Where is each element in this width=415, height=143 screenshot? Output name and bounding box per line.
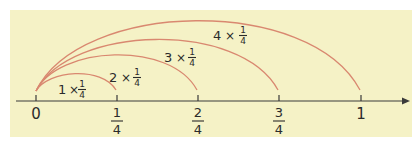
tick-label-0: 0 (31, 105, 41, 123)
svg-text:×: × (176, 51, 186, 65)
svg-text:1: 1 (189, 47, 195, 57)
jump-label-1: 1 × 1 4 (58, 79, 86, 100)
tick-label-three-quarters: 3 4 (273, 105, 285, 137)
jump-label-2: 2 × 1 4 (109, 67, 141, 88)
svg-text:4: 4 (240, 36, 246, 46)
svg-text:3: 3 (275, 105, 283, 120)
svg-text:1: 1 (113, 105, 121, 120)
tick-label-1: 1 (356, 105, 366, 123)
axis-arrow-icon (402, 98, 410, 105)
svg-text:1: 1 (79, 79, 85, 89)
svg-text:4: 4 (275, 122, 283, 137)
svg-text:×: × (121, 71, 131, 85)
svg-text:3: 3 (164, 50, 172, 65)
svg-text:2: 2 (109, 70, 117, 85)
svg-text:1: 1 (58, 82, 66, 97)
tick-label-half: 2 4 (192, 105, 204, 137)
svg-text:4: 4 (194, 122, 202, 137)
svg-text:4: 4 (113, 122, 121, 137)
svg-text:2: 2 (194, 105, 202, 120)
svg-text:×: × (69, 83, 79, 97)
svg-text:×: × (225, 29, 235, 43)
svg-text:4: 4 (79, 90, 85, 100)
jump-label-4: 4 × 1 4 (213, 25, 247, 46)
jump-label-3: 3 × 1 4 (164, 47, 196, 68)
svg-text:1: 1 (240, 25, 246, 35)
svg-text:4: 4 (134, 78, 140, 88)
svg-text:4: 4 (213, 28, 221, 43)
number-line-diagram: 0 1 4 2 4 3 4 1 1 × 1 4 2 × 1 4 3 × 1 4 … (0, 0, 415, 143)
svg-text:4: 4 (189, 58, 195, 68)
tick-label-quarter: 1 4 (111, 105, 123, 137)
svg-text:1: 1 (134, 67, 140, 77)
